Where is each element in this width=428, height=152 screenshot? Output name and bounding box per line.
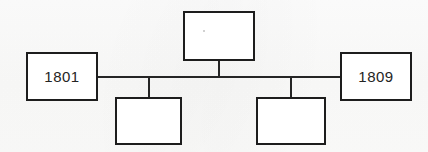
diagram-canvas: 1801 1809 — [0, 0, 428, 152]
connector-stub-bottom-left — [148, 76, 150, 97]
node-bottom-left[interactable] — [115, 97, 182, 145]
node-left-label: 1801 — [44, 69, 79, 84]
node-bottom-right[interactable] — [256, 97, 326, 145]
connector-stub-top-center — [218, 61, 220, 77]
node-top-center[interactable] — [183, 11, 255, 61]
node-right[interactable]: 1809 — [340, 52, 412, 101]
scan-speck-icon — [203, 30, 205, 32]
node-left[interactable]: 1801 — [26, 52, 98, 101]
connector-stub-bottom-right — [290, 76, 292, 97]
node-right-label: 1809 — [358, 69, 393, 84]
